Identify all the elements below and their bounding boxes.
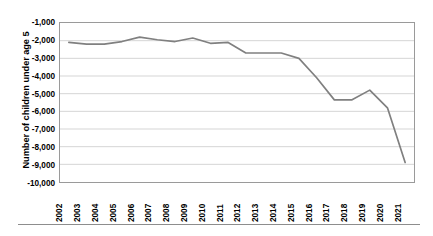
x-tick-label: 2019 [358, 204, 367, 222]
gridlines [60, 41, 414, 165]
y-tick-label: -1,000 [20, 18, 55, 27]
y-tick-label: -7,000 [20, 125, 55, 134]
y-tick-label: -10,000 [20, 179, 55, 188]
y-tick-label: -2,000 [20, 35, 55, 44]
x-tick-label: 2018 [340, 204, 349, 222]
y-tick-label: -3,000 [20, 53, 55, 62]
x-tick-label: 2009 [180, 204, 189, 222]
x-tick-label: 2010 [198, 204, 207, 222]
x-tick-label: 2017 [322, 204, 331, 222]
x-tick-label: 2016 [305, 204, 314, 222]
x-tick-label: 2020 [376, 204, 385, 222]
y-tick-label: -5,000 [20, 89, 55, 98]
footer-divider [18, 224, 420, 225]
x-tick-label: 2021 [394, 204, 403, 222]
chart-canvas [60, 23, 414, 182]
y-axis-tick-labels: -1,000-2,000-3,000-4,000-5,000-6,000-7,0… [20, 16, 55, 184]
x-tick-label: 2003 [73, 204, 82, 222]
x-tick-label: 2004 [91, 204, 100, 222]
y-tick-label: -8,000 [20, 143, 55, 152]
y-tick-label: -9,000 [20, 161, 55, 170]
x-tick-label: 2012 [233, 204, 242, 222]
y-tick-label: -4,000 [20, 71, 55, 80]
y-tick-label: -6,000 [20, 107, 55, 116]
x-tick-label: 2005 [109, 204, 118, 222]
x-tick-label: 2013 [251, 204, 260, 222]
x-tick-label: 2008 [162, 204, 171, 222]
x-axis-tick-labels: 2002200320042005200620072008200920102011… [59, 186, 415, 222]
x-tick-label: 2002 [55, 204, 64, 222]
x-tick-label: 2014 [269, 204, 278, 222]
x-tick-label: 2011 [216, 204, 225, 222]
data-series-line [69, 37, 405, 162]
x-tick-label: 2007 [144, 204, 153, 222]
x-tick-label: 2015 [287, 204, 296, 222]
chart-figure: Number of children under age 5 -1,000-2,… [0, 0, 433, 236]
x-tick-label: 2006 [127, 204, 136, 222]
plot-area [59, 22, 415, 183]
